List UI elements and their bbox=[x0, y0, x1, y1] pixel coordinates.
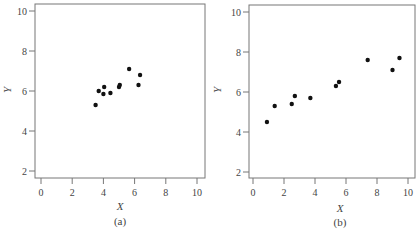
y-tick-label: 8 bbox=[22, 46, 27, 57]
scatter-panel-a: 0246810246810 Y X (a) bbox=[0, 0, 210, 237]
clipped-body-text: …… bbox=[0, 231, 416, 237]
data-point bbox=[273, 104, 277, 108]
caption-a: (a) bbox=[105, 215, 135, 227]
data-point bbox=[102, 85, 106, 89]
x-tick-label: 2 bbox=[70, 187, 75, 198]
data-point bbox=[366, 58, 370, 62]
scatter-panel-b: 0246810246810 Y X (b) bbox=[210, 0, 416, 237]
x-tick-label: 0 bbox=[251, 187, 256, 198]
y-tick-label: 4 bbox=[236, 127, 241, 138]
x-tick-label: 10 bbox=[403, 187, 413, 198]
data-point bbox=[101, 92, 105, 96]
data-point bbox=[118, 83, 122, 87]
data-point bbox=[397, 56, 401, 60]
x-tick-label: 4 bbox=[101, 187, 106, 198]
data-point bbox=[334, 84, 338, 88]
scatter-plot-b: 0246810246810 bbox=[210, 0, 416, 237]
x-tick-label: 2 bbox=[282, 187, 287, 198]
x-tick-label: 10 bbox=[192, 187, 202, 198]
x-tick-label: 8 bbox=[163, 187, 168, 198]
data-point bbox=[308, 96, 312, 100]
x-tick-label: 4 bbox=[313, 187, 318, 198]
x-tick-label: 6 bbox=[344, 187, 349, 198]
x-axis-label-a: X bbox=[110, 200, 130, 212]
data-point bbox=[127, 67, 131, 71]
data-point bbox=[293, 94, 297, 98]
data-point bbox=[265, 120, 269, 124]
y-tick-label: 6 bbox=[22, 86, 27, 97]
y-tick-label: 4 bbox=[22, 126, 27, 137]
x-tick-label: 0 bbox=[39, 187, 44, 198]
caption-b: (b) bbox=[325, 216, 355, 228]
y-tick-label: 6 bbox=[236, 87, 241, 98]
x-tick-label: 8 bbox=[375, 187, 380, 198]
scatter-plot-a: 0246810246810 bbox=[0, 0, 210, 237]
data-point bbox=[93, 103, 97, 107]
y-axis-label-a: Y bbox=[1, 87, 13, 93]
data-point bbox=[97, 89, 101, 93]
y-tick-label: 8 bbox=[236, 47, 241, 58]
data-point bbox=[290, 102, 294, 106]
x-axis-label-b: X bbox=[330, 202, 350, 214]
y-tick-label: 2 bbox=[22, 166, 27, 177]
data-point bbox=[136, 83, 140, 87]
data-point bbox=[390, 68, 394, 72]
data-point bbox=[108, 91, 112, 95]
plot-frame bbox=[35, 4, 205, 178]
y-tick-label: 10 bbox=[17, 6, 27, 17]
x-tick-label: 6 bbox=[132, 187, 137, 198]
data-point bbox=[138, 73, 142, 77]
data-point bbox=[337, 80, 341, 84]
y-tick-label: 10 bbox=[231, 7, 241, 18]
y-axis-label-b: Y bbox=[211, 87, 223, 93]
y-tick-label: 2 bbox=[236, 167, 241, 178]
plot-frame bbox=[249, 5, 415, 178]
